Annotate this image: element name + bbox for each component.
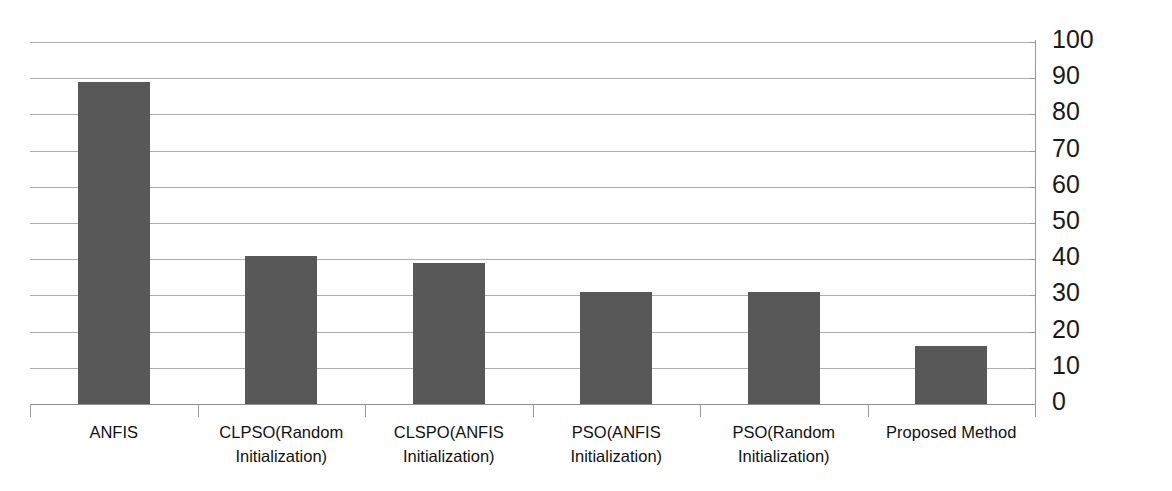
x-axis-category-label: ANFIS xyxy=(30,420,198,444)
bar[interactable] xyxy=(915,346,987,404)
y-tick-mark-90 xyxy=(1029,78,1036,79)
y-axis-tick-label: 70 xyxy=(1052,136,1080,161)
bar-slot xyxy=(533,42,701,404)
y-axis-tick-label: 40 xyxy=(1052,244,1080,269)
y-tick-mark-30 xyxy=(1029,295,1036,296)
bar-slot xyxy=(868,42,1036,404)
x-axis-tick xyxy=(700,404,701,417)
y-axis-tick-label: 90 xyxy=(1052,63,1080,88)
x-axis-labels: ANFISCLPSO(RandomInitialization)CLSPO(AN… xyxy=(30,420,1035,490)
x-axis-category-label: PSO(ANFISInitialization) xyxy=(533,420,701,468)
y-axis-tick-label: 30 xyxy=(1052,280,1080,305)
y-tick-mark-50 xyxy=(1029,223,1036,224)
y-tick-mark-60 xyxy=(1029,187,1036,188)
x-axis-category-label-line: Initialization) xyxy=(365,444,533,468)
x-axis-category-label-line: Initialization) xyxy=(700,444,868,468)
y-tick-mark-40 xyxy=(1029,259,1036,260)
x-axis-tick xyxy=(198,404,199,417)
bar[interactable] xyxy=(580,292,652,404)
y-axis-tick-label: 0 xyxy=(1052,389,1066,414)
y-tick-mark-80 xyxy=(1029,114,1036,115)
x-axis-category-label: PSO(RandomInitialization) xyxy=(700,420,868,468)
bar[interactable] xyxy=(78,82,150,404)
x-axis-tick xyxy=(365,404,366,417)
x-axis-category-label-line: PSO(ANFIS xyxy=(533,420,701,444)
y-axis-tick-label: 20 xyxy=(1052,317,1080,342)
bar[interactable] xyxy=(245,256,317,404)
x-axis-category-label-line: Initialization) xyxy=(533,444,701,468)
x-axis-tick xyxy=(868,404,869,417)
x-axis-category-label-line: ANFIS xyxy=(30,420,198,444)
plot-area xyxy=(30,42,1035,404)
x-axis-category-label-line: PSO(Random xyxy=(700,420,868,444)
y-axis-tick-label: 80 xyxy=(1052,99,1080,124)
x-axis-tick xyxy=(30,404,31,417)
bar[interactable] xyxy=(748,292,820,404)
x-axis-category-label: CLSPO(ANFISInitialization) xyxy=(365,420,533,468)
y-axis-tick-label: 10 xyxy=(1052,353,1080,378)
bar-chart: 1009080706050403020100 ANFISCLPSO(Random… xyxy=(0,0,1172,491)
bar-slot xyxy=(198,42,366,404)
x-axis-category-label: CLPSO(RandomInitialization) xyxy=(198,420,366,468)
x-axis-category-label-line: Proposed Method xyxy=(868,420,1036,444)
x-axis-tick xyxy=(533,404,534,417)
y-tick-mark-100 xyxy=(1029,42,1036,43)
y-tick-mark-10 xyxy=(1029,368,1036,369)
y-axis-tick-label: 100 xyxy=(1052,27,1094,52)
y-axis-tick-label: 50 xyxy=(1052,208,1080,233)
y-tick-mark-20 xyxy=(1029,332,1036,333)
y-tick-mark-70 xyxy=(1029,151,1036,152)
bars-layer xyxy=(30,42,1035,404)
bar-slot xyxy=(700,42,868,404)
x-axis-tick xyxy=(1035,404,1036,417)
x-axis-category-label-line: CLPSO(Random xyxy=(198,420,366,444)
bar-slot xyxy=(30,42,198,404)
x-axis-category-label-line: Initialization) xyxy=(198,444,366,468)
bar[interactable] xyxy=(413,263,485,404)
x-axis-category-label-line: CLSPO(ANFIS xyxy=(365,420,533,444)
bar-slot xyxy=(365,42,533,404)
x-axis-category-label: Proposed Method xyxy=(868,420,1036,444)
y-axis-tick-label: 60 xyxy=(1052,172,1080,197)
